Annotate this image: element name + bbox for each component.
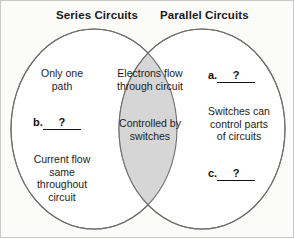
blank-a-marker: a. [208, 69, 217, 81]
right-item-blank-c[interactable]: c.? [208, 167, 255, 181]
left-item-blank-b[interactable]: b.? [33, 116, 81, 130]
overlap-item-controlled-by-switches: Controlled by switches [109, 117, 191, 142]
left-item-current-flow: Current flow same throughout circuit [17, 153, 107, 203]
blank-b-answer[interactable]: ? [43, 116, 81, 130]
blank-b-marker: b. [33, 116, 43, 128]
blank-c-marker: c. [208, 167, 217, 179]
venn-diagram: Series Circuits Parallel Circuits Only o… [0, 0, 294, 238]
blank-a-answer[interactable]: ? [217, 69, 255, 83]
left-item-only-one-path: Only one path [23, 67, 101, 92]
right-item-blank-a[interactable]: a.? [208, 69, 255, 83]
right-item-switches-control: Switches can control parts of circuits [197, 105, 281, 143]
overlap-item-electrons-flow: Electrons flow through circuit [109, 67, 191, 92]
blank-c-answer[interactable]: ? [217, 167, 255, 181]
